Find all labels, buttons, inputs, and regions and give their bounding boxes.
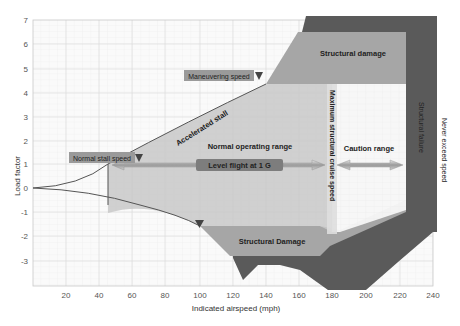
y-axis-label: Load factor bbox=[13, 156, 22, 196]
svg-text:-2: -2 bbox=[21, 232, 29, 241]
level-flight-label: Level flight at 1 G bbox=[208, 161, 271, 170]
svg-text:6: 6 bbox=[24, 40, 29, 49]
svg-text:60: 60 bbox=[128, 291, 137, 300]
svg-text:100: 100 bbox=[193, 291, 207, 300]
structural-damage-bottom-label: Structural Damage bbox=[239, 237, 306, 246]
normal-operating-range-label: Normal operating range bbox=[208, 142, 293, 151]
normal-stall-speed-label: Normal stall speed bbox=[73, 155, 131, 163]
svg-text:-3: -3 bbox=[21, 257, 29, 266]
svg-text:120: 120 bbox=[226, 291, 240, 300]
svg-text:5: 5 bbox=[24, 65, 29, 74]
svg-text:4: 4 bbox=[24, 89, 29, 98]
structural-damage-top-label: Structural damage bbox=[320, 49, 386, 58]
y-axis: 7 6 5 4 3 2 1 0 -1 -2 -3 bbox=[21, 16, 29, 266]
svg-text:1: 1 bbox=[24, 160, 29, 169]
x-axis: 20 40 60 80 100 120 140 160 180 200 220 … bbox=[62, 291, 441, 300]
max-structural-cruise-label: Maximum structural cruise speed bbox=[328, 90, 336, 201]
svg-text:40: 40 bbox=[95, 291, 104, 300]
caution-range-label: Caution range bbox=[344, 144, 394, 153]
never-exceed-speed-label: Never exceed speed bbox=[440, 118, 448, 182]
svg-text:2: 2 bbox=[24, 137, 29, 146]
svg-text:7: 7 bbox=[24, 16, 29, 25]
svg-text:80: 80 bbox=[161, 291, 170, 300]
svg-text:20: 20 bbox=[62, 291, 71, 300]
svg-text:0: 0 bbox=[24, 184, 29, 193]
svg-text:200: 200 bbox=[359, 291, 373, 300]
svg-text:140: 140 bbox=[259, 291, 273, 300]
x-axis-label: Indicated airspeed (mph) bbox=[192, 304, 281, 313]
svg-text:220: 220 bbox=[393, 291, 407, 300]
vg-diagram: Level flight at 1 G Structural damage St… bbox=[0, 0, 460, 326]
svg-text:180: 180 bbox=[325, 291, 339, 300]
maneuvering-speed-label: Maneuvering speed bbox=[188, 73, 250, 81]
svg-text:160: 160 bbox=[292, 291, 306, 300]
svg-text:240: 240 bbox=[426, 291, 440, 300]
svg-text:3: 3 bbox=[24, 113, 29, 122]
svg-text:-1: -1 bbox=[21, 208, 29, 217]
structural-failure-label: Structural failure bbox=[418, 102, 425, 153]
